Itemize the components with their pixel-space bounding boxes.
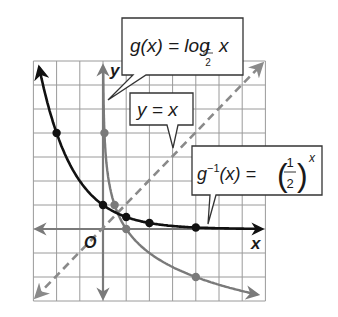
callout-ginv-num: 1 [286,155,293,170]
data-point [192,273,200,281]
data-point [192,223,200,231]
callout-yx-text: y = x [135,99,179,120]
callout-ginv-rparen: ) [297,157,308,193]
callout-ginv-exp: x [308,151,316,165]
x-axis-label: x [250,234,262,253]
callout-ginv-sup: −1 [207,162,220,174]
data-point [145,219,153,227]
callout-ginv-mid: (x) = [220,164,257,184]
callout-yx: y = x [130,93,193,148]
data-point [122,213,130,221]
callout-ginv-g: g [197,164,207,184]
callout-g-sub-den: 2 [205,57,211,68]
callout-g-var: x [218,35,230,56]
data-point [99,201,107,209]
data-point [52,129,60,137]
svg-text:g−1(x) =: g−1(x) = [197,162,256,184]
graph: y x O g(x) = log 1 2 x y = x g−1(x) = ( … [0,0,338,317]
callout-g: g(x) = log 1 2 x [108,18,243,100]
data-point [122,225,130,233]
data-point [110,201,118,209]
y-axis-label: y [109,61,121,80]
callout-g-sub-num: 1 [205,41,211,52]
svg-text:g(x) = log: g(x) = log [130,35,210,56]
callout-g-text: g(x) = log [130,35,210,56]
data-point [100,129,108,137]
callout-ginv-den: 2 [286,176,293,191]
origin-label: O [84,234,97,251]
callout-ginv: g−1(x) = ( 1 2 ) x [192,146,322,224]
